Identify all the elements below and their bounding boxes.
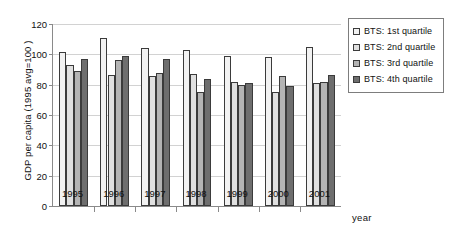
bar xyxy=(190,74,197,206)
x-tick-mark xyxy=(300,206,301,212)
legend-label: BTS: 2nd quartile xyxy=(364,42,435,52)
x-tick-mark xyxy=(135,206,136,212)
bar xyxy=(204,79,211,206)
bar-group xyxy=(94,24,135,206)
bar xyxy=(163,59,170,206)
y-tick-label: 100 xyxy=(31,49,47,60)
bar xyxy=(59,52,66,206)
legend-label: BTS: 1st quartile xyxy=(364,26,432,36)
bar xyxy=(306,47,313,206)
x-tick-mark xyxy=(94,206,95,212)
bar xyxy=(122,56,129,206)
bar-group xyxy=(218,24,259,206)
x-tick-mark xyxy=(176,206,177,212)
legend-swatch-icon xyxy=(353,28,360,35)
x-tick-mark xyxy=(259,206,260,212)
bar-group xyxy=(53,24,94,206)
bar-group xyxy=(300,24,341,206)
x-tick-label: 2001 xyxy=(299,188,340,199)
bar-group xyxy=(259,24,300,206)
bar-group xyxy=(176,24,217,206)
bar xyxy=(74,71,81,206)
legend-item: BTS: 4th quartile xyxy=(349,71,443,87)
x-tick-label: 1995 xyxy=(52,188,93,199)
x-tick-label: 1998 xyxy=(175,188,216,199)
bar xyxy=(100,38,107,206)
legend-swatch-icon xyxy=(353,60,360,67)
y-tick-label: 120 xyxy=(31,19,47,30)
bar-group xyxy=(135,24,176,206)
chart-legend: BTS: 1st quartileBTS: 2nd quartileBTS: 3… xyxy=(348,18,444,93)
bar xyxy=(279,76,286,206)
legend-label: BTS: 3rd quartile xyxy=(364,58,433,68)
bar xyxy=(156,73,163,206)
x-tick-label: 1999 xyxy=(217,188,258,199)
bar xyxy=(149,76,156,206)
bar xyxy=(328,75,335,206)
plot-area: 020406080100120 xyxy=(52,24,341,207)
legend-item: BTS: 1st quartile xyxy=(349,23,443,39)
legend-label: BTS: 4th quartile xyxy=(364,74,433,84)
bar xyxy=(66,65,73,206)
x-axis-title: year xyxy=(352,212,372,223)
legend-swatch-icon xyxy=(353,44,360,51)
x-tick-label: 1996 xyxy=(93,188,134,199)
legend-item: BTS: 2nd quartile xyxy=(349,39,443,55)
y-tick-mark xyxy=(49,206,53,207)
y-axis-title: GDP per capita (1995 avg=100 ) xyxy=(22,21,33,201)
y-tick-label: 40 xyxy=(36,140,47,151)
x-tick-mark xyxy=(218,206,219,212)
bar xyxy=(141,48,148,206)
x-tick-label: 1997 xyxy=(134,188,175,199)
bar-chart: GDP per capita (1995 avg=100 ) 020406080… xyxy=(0,0,449,243)
bar xyxy=(108,75,115,206)
bar xyxy=(183,50,190,206)
x-tick-label: 2000 xyxy=(258,188,299,199)
y-tick-label: 0 xyxy=(42,201,47,212)
bar xyxy=(265,57,272,206)
y-tick-label: 80 xyxy=(36,79,47,90)
bar xyxy=(115,60,122,206)
y-tick-label: 20 xyxy=(36,170,47,181)
legend-item: BTS: 3rd quartile xyxy=(349,55,443,71)
bar xyxy=(81,59,88,206)
legend-swatch-icon xyxy=(353,76,360,83)
bar xyxy=(224,56,231,206)
y-tick-label: 60 xyxy=(36,110,47,121)
